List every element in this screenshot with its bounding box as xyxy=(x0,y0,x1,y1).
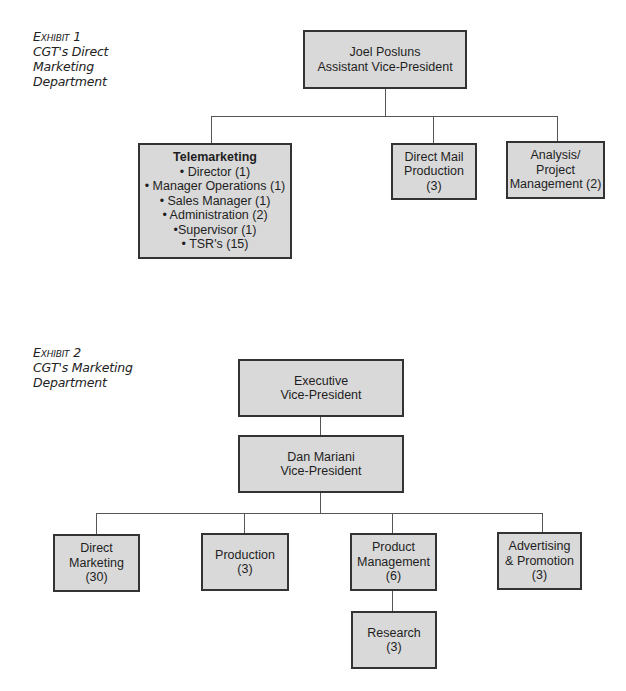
box-line: • TSR's (15) xyxy=(182,237,249,252)
box-line: Joel Posluns xyxy=(350,45,421,60)
connector-line xyxy=(211,116,212,143)
connector-line xyxy=(320,417,321,435)
box-line: Management (2) xyxy=(510,177,602,192)
box-line: • Manager Operations (1) xyxy=(145,179,286,194)
product-management-box: Product Management (6) xyxy=(350,533,437,591)
box-line: Direct Mail xyxy=(404,150,463,165)
connector-line xyxy=(557,116,558,141)
box-line: Executive xyxy=(294,374,348,389)
box-line: (3) xyxy=(386,640,401,655)
box-line: Advertising xyxy=(509,539,571,554)
box-line: Project xyxy=(536,163,575,178)
box-line: Vice-President xyxy=(280,388,361,403)
connector-line xyxy=(320,493,321,513)
exhibit-2-title-line: CGT's Marketing xyxy=(33,360,133,375)
research-box: Research (3) xyxy=(351,611,437,669)
direct-marketing-box: Direct Marketing (30) xyxy=(53,534,140,592)
telemarketing-box: Telemarketing • Director (1) • Manager O… xyxy=(138,143,292,259)
box-line: Vice-President xyxy=(280,464,361,479)
executive-vp-box: Executive Vice-President xyxy=(238,359,404,417)
box-line: • Director (1) xyxy=(180,165,250,180)
exhibit-2-caption: Exhibit 2 CGT's Marketing Department xyxy=(33,345,133,390)
box-line: Assistant Vice-President xyxy=(317,60,452,75)
advertising-promotion-box: Advertising & Promotion (3) xyxy=(497,532,582,590)
connector-line xyxy=(542,513,543,532)
exhibit-1-title-line: Marketing xyxy=(33,59,108,74)
dan-mariani-box: Dan Mariani Vice-President xyxy=(238,435,404,493)
joel-posluns-box: Joel Posluns Assistant Vice-President xyxy=(303,30,467,89)
connector-line xyxy=(96,513,543,514)
telemarketing-title: Telemarketing xyxy=(173,150,257,165)
analysis-project-management-box: Analysis/ Project Management (2) xyxy=(506,141,605,199)
box-line: (30) xyxy=(85,570,107,585)
box-line: Production xyxy=(404,164,464,179)
exhibit-1-title-line: CGT's Direct xyxy=(33,44,108,59)
box-line: Research xyxy=(367,626,421,641)
exhibit-2-title-line: Department xyxy=(33,375,133,390)
connector-line xyxy=(244,513,245,533)
box-line: • Sales Manager (1) xyxy=(160,194,271,209)
exhibit-1-caption: Exhibit 1 CGT's Direct Marketing Departm… xyxy=(33,29,108,89)
box-line: (3) xyxy=(532,568,547,583)
connector-line xyxy=(433,116,434,143)
box-line: Product xyxy=(372,540,415,555)
box-line: Management xyxy=(357,555,430,570)
production-box: Production (3) xyxy=(201,533,289,591)
direct-mail-production-box: Direct Mail Production (3) xyxy=(391,143,477,200)
connector-line xyxy=(211,116,558,117)
box-line: Marketing xyxy=(69,556,124,571)
box-line: (6) xyxy=(386,569,401,584)
exhibit-2-label: Exhibit 2 xyxy=(33,345,133,360)
connector-line xyxy=(96,513,97,534)
box-line: (3) xyxy=(426,179,441,194)
box-line: (3) xyxy=(237,562,252,577)
connector-line xyxy=(392,513,393,533)
box-line: Dan Mariani xyxy=(287,450,354,465)
box-line: Production xyxy=(215,548,275,563)
box-line: •Supervisor (1) xyxy=(174,223,257,238)
connector-line xyxy=(385,89,386,116)
box-line: Analysis/ xyxy=(530,148,580,163)
box-line: Direct xyxy=(80,541,113,556)
box-line: • Administration (2) xyxy=(162,208,267,223)
exhibit-1-title-line: Department xyxy=(33,74,108,89)
box-line: & Promotion xyxy=(505,554,574,569)
exhibit-1-label: Exhibit 1 xyxy=(33,29,108,44)
connector-line xyxy=(392,591,393,611)
